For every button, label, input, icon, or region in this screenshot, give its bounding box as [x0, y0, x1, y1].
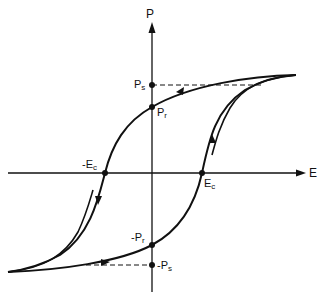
e-axis-arrowhead — [296, 170, 306, 177]
ec-point — [199, 170, 205, 176]
ps-label: Ps — [134, 79, 145, 92]
neg-ec-label: -Ec — [82, 159, 97, 172]
e-axis-label: E — [309, 167, 317, 179]
neg-ps-point — [149, 262, 155, 268]
lower-left-inner-curve — [8, 190, 93, 272]
diagram-graphics — [0, 0, 318, 301]
p-axis-label: P — [146, 8, 154, 20]
neg-ps-label: -Ps — [157, 260, 172, 273]
pr-label: Pr — [157, 107, 167, 120]
neg-pr-point — [149, 242, 155, 248]
ec-label: Ec — [204, 178, 215, 191]
upper-right-inner-curve — [212, 75, 296, 155]
p-axis-arrowhead — [149, 22, 156, 33]
hysteresis-diagram: P E Ps Pr -Ec Ec -Pr -Ps — [0, 0, 318, 301]
ps-point — [149, 82, 155, 88]
pr-point — [149, 104, 155, 110]
neg-pr-label: -Pr — [131, 232, 145, 245]
neg-ec-point — [102, 170, 108, 176]
